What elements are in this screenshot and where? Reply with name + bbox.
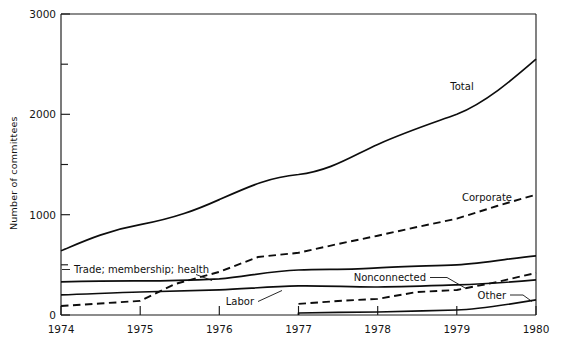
x-tick-label-1980: 1980 [523,323,550,335]
x-tick-label-1978: 1978 [364,323,391,335]
trade-label: Trade; membership; health [73,264,209,275]
total-label: Total [449,81,473,92]
x-tick-label-1977: 1977 [285,323,312,335]
line-chart: 3000 2000 1000 0 1974 1975 1976 1977 197… [0,0,561,343]
figure-container: 3000 2000 1000 0 1974 1975 1976 1977 197… [0,0,561,343]
x-tick-label-1979: 1979 [443,323,470,335]
labor-label: Labor [226,296,255,307]
x-tick-label-1976: 1976 [206,323,233,335]
y-axis-title: Number of committees [8,116,19,230]
nonconnected-label: Nonconnected [354,272,426,283]
y-tick-label-0: 0 [49,309,56,321]
y-tick-label-2000: 2000 [29,108,56,120]
corporate-label: Corporate [462,192,512,203]
y-tick-label-3000: 3000 [29,8,56,20]
x-tick-label-1974: 1974 [48,323,75,335]
other-label: Other [478,290,507,301]
y-tick-label-1000: 1000 [29,209,56,221]
x-tick-label-1975: 1975 [127,323,154,335]
